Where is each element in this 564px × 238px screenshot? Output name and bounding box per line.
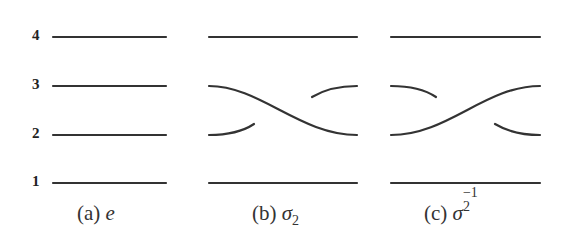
over-strand	[391, 86, 540, 135]
strand-label-2: 2	[32, 125, 40, 142]
over-strand	[209, 86, 357, 135]
under-strand-left	[391, 86, 436, 97]
under-strand-right	[495, 124, 540, 135]
strand-label-4: 4	[32, 27, 40, 44]
panel-c-strands	[391, 37, 540, 183]
caption-c: (c) σ−12	[424, 201, 485, 226]
under-strand-right	[312, 86, 357, 97]
panel-b-strands	[209, 37, 357, 183]
caption-a: (a) e	[77, 201, 115, 226]
panel-a-strands	[53, 37, 166, 183]
caption-b: (b) σ2	[252, 201, 299, 229]
strand-label-3: 3	[32, 76, 40, 93]
strand-label-1: 1	[32, 173, 40, 190]
under-strand-left	[209, 124, 254, 135]
